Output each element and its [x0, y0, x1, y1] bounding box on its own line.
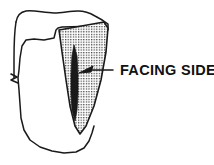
facing-side-label: FACING SIDE	[120, 62, 214, 78]
facing-side-diagram: FACING SIDE	[0, 0, 214, 165]
blade-lens	[71, 45, 78, 121]
technical-illustration: FACING SIDE	[0, 0, 214, 165]
